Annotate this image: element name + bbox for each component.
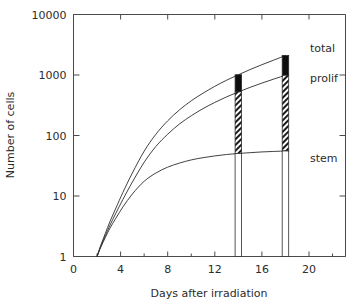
bar-day-14-prolif-fraction (235, 92, 242, 154)
bar-day-18 (282, 56, 289, 257)
bar-day-18-stem-fraction (282, 151, 289, 257)
y-tick-label-10000: 10000 (32, 9, 67, 22)
y-tick-label-10: 10 (53, 190, 67, 203)
label-prolif: prolif (310, 72, 339, 85)
bar-day-18-prolif-fraction (282, 75, 289, 151)
x-axis-title: Days after irradiation (151, 287, 268, 300)
figure-panel: 110100100010000 048121620 totalprolifste… (0, 0, 354, 307)
y-tick-label-100: 100 (46, 130, 67, 143)
x-tick-label-0: 0 (70, 263, 77, 276)
label-stem: stem (310, 152, 338, 165)
bar-day-14-nonprolif-fraction (235, 75, 242, 92)
x-tick-label-4: 4 (117, 263, 124, 276)
cell-growth-log-plot: 110100100010000 048121620 totalprolifste… (0, 0, 354, 307)
y-tick-label-1: 1 (60, 251, 67, 264)
plot-background (0, 0, 354, 307)
bar-day-18-nonprolif-fraction (282, 56, 289, 76)
x-tick-label-16: 16 (255, 263, 269, 276)
x-tick-label-8: 8 (164, 263, 171, 276)
y-tick-label-1000: 1000 (39, 69, 67, 82)
bar-day-14 (235, 75, 242, 257)
label-total: total (310, 42, 335, 55)
x-tick-label-20: 20 (302, 263, 316, 276)
x-tick-label-12: 12 (208, 263, 222, 276)
bar-day-14-stem-fraction (235, 153, 242, 256)
y-axis-title: Number of cells (4, 92, 17, 179)
